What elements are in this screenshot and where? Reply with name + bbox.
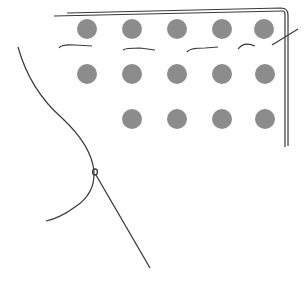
grid-dot [77, 19, 97, 39]
grid-dot [255, 64, 275, 84]
grid-dot [255, 109, 275, 129]
needle-eye-icon [93, 169, 98, 175]
grid-dot [167, 109, 187, 129]
needle-line [96, 175, 150, 268]
patent-figure [0, 0, 308, 297]
grid-dot [122, 19, 142, 39]
grid-dot [167, 64, 187, 84]
grid-dot [77, 64, 97, 84]
grid-dot [212, 64, 232, 84]
figure-drawing [0, 0, 308, 297]
dot-grid [77, 19, 275, 129]
grid-dot [212, 109, 232, 129]
grid-dot [254, 19, 274, 39]
grid-dot [167, 19, 187, 39]
grid-dot [122, 109, 142, 129]
arc-marks [59, 44, 255, 52]
grid-dot [212, 19, 232, 39]
grid-dot [122, 64, 142, 84]
